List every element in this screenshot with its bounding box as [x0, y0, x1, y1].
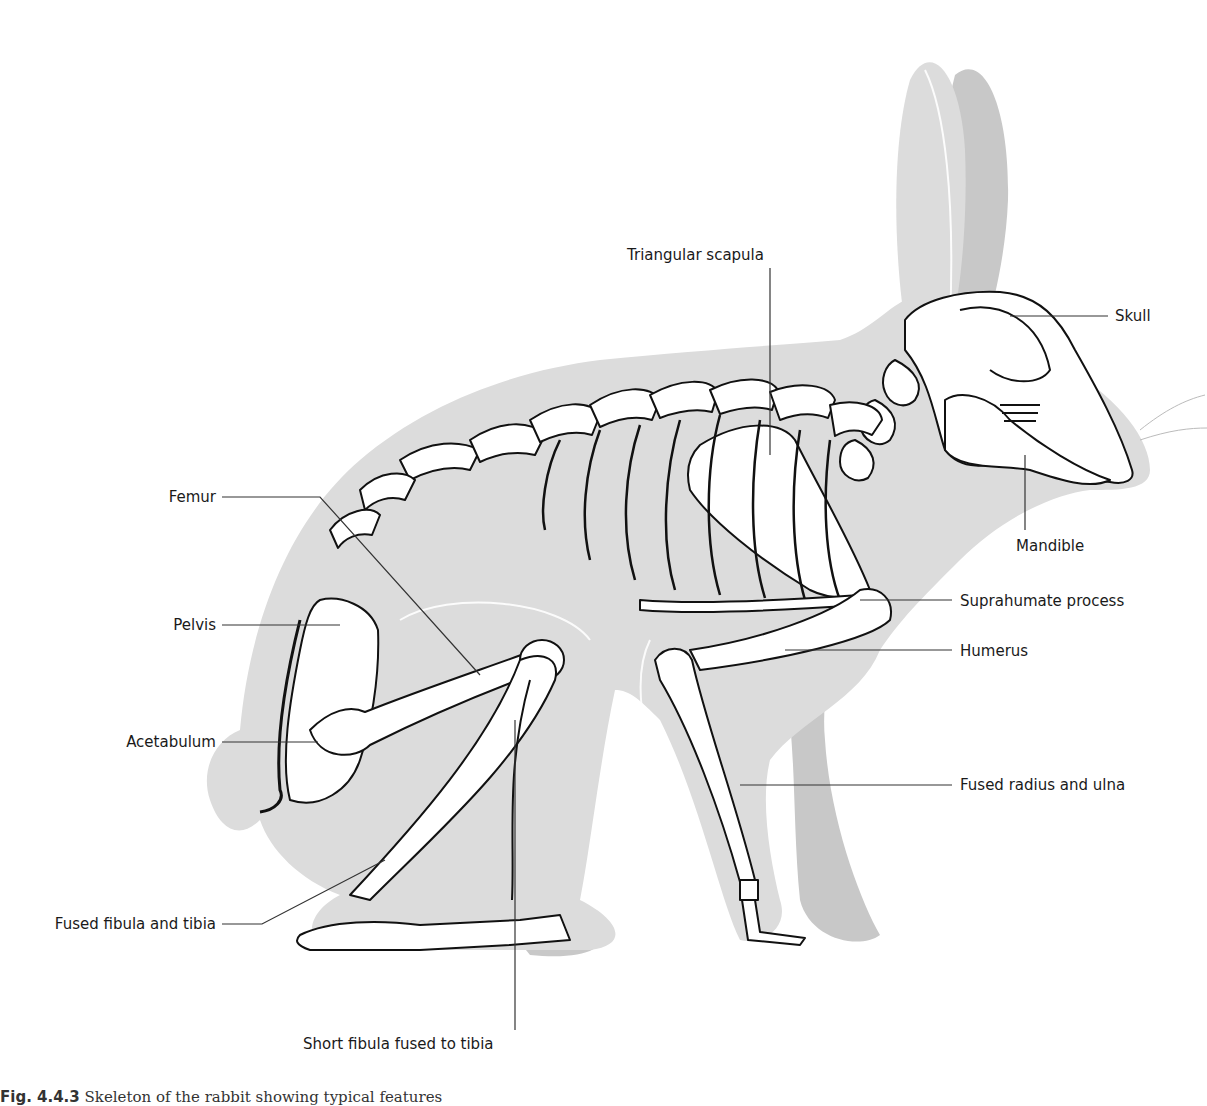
label-mandible: Mandible [1016, 537, 1084, 555]
label-fused-radius-ulna: Fused radius and ulna [960, 776, 1125, 794]
label-suprahumate-process: Suprahumate process [960, 592, 1124, 610]
body-silhouette [207, 62, 1150, 950]
caption-number: Fig. 4.4.3 [0, 1088, 80, 1106]
label-acetabulum: Acetabulum [60, 733, 216, 751]
figure-caption: Fig. 4.4.3 Skeleton of the rabbit showin… [0, 1088, 442, 1106]
label-triangular-scapula: Triangular scapula [627, 246, 764, 264]
label-fused-fibula-tibia: Fused fibula and tibia [0, 915, 216, 933]
label-femur: Femur [100, 488, 216, 506]
label-skull: Skull [1115, 307, 1151, 325]
caption-text: Skeleton of the rabbit showing typical f… [85, 1088, 443, 1106]
label-humerus: Humerus [960, 642, 1028, 660]
whiskers [1140, 395, 1207, 440]
label-pelvis: Pelvis [100, 616, 216, 634]
label-short-fibula: Short fibula fused to tibia [303, 1035, 494, 1053]
